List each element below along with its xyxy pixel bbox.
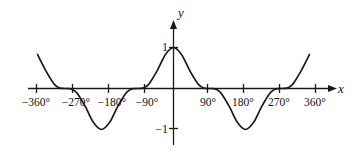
y-tick-label-minus-1: −1 — [155, 123, 168, 135]
y-tick-label-1: 1 — [162, 41, 168, 53]
math-function-plot: x y −360° −270° −180° −90° 90° 180° 270°… — [0, 0, 356, 165]
x-tick-label-minus-270: −270° — [62, 97, 90, 109]
x-tick-label-360: 360° — [304, 97, 326, 109]
x-tick-label-minus-180: −180° — [98, 97, 126, 109]
x-tick-label-minus-90: −90° — [136, 97, 159, 109]
x-tick-label-180: 180° — [232, 97, 254, 109]
y-axis-label: y — [178, 6, 184, 19]
y-axis — [170, 20, 177, 145]
x-tick-label-minus-360: −360° — [22, 97, 50, 109]
x-axis-label: x — [338, 82, 344, 95]
x-tick-label-90: 90° — [200, 97, 216, 109]
plot-canvas — [0, 0, 356, 165]
x-tick-label-270: 270° — [268, 97, 290, 109]
